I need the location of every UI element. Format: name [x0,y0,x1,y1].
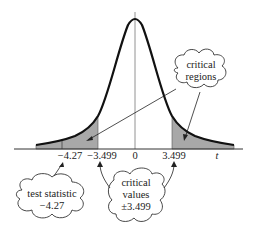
test-statistic-callout: test statistic −4.27 [16,174,83,218]
arrow-to-right-region [185,92,200,138]
callout-text-line1: test statistic [27,188,77,199]
callout-text-line1: critical [186,59,215,70]
tick-label-zero: 0 [132,150,137,161]
tick-label-neg-3-499: −3.499 [87,150,117,161]
arrow-to-left-region [88,89,176,140]
callout-text-line2: values [123,189,150,200]
callout-text-line1: critical [121,177,150,188]
tick-label-neg-4-27: −4.27 [58,150,82,161]
arrow-to-pos-critical-value [164,164,174,188]
tick-label-3-499: 3.499 [162,150,186,161]
callout-text-line2: regions [186,71,217,82]
critical-regions-callout: critical regions [174,49,226,88]
arrowhead-icon [59,162,64,167]
critical-values-callout: critical values ±3.499 [108,168,165,221]
arrowhead-icon [97,161,103,167]
callout-text-line2: −4.27 [40,200,64,211]
axis-variable-label: t [216,150,220,161]
arrowhead-icon [171,161,177,167]
arrow-to-neg-critical-value [100,164,110,188]
callout-text-line3: ±3.499 [121,201,150,212]
t-distribution-diagram: −4.27 −3.499 0 3.499 t critical regions … [0,0,268,240]
